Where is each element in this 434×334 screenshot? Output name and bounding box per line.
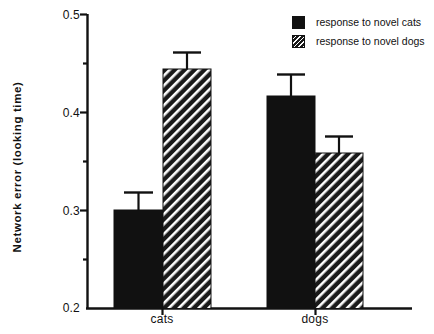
legend-item-1: response to novel dogs bbox=[292, 33, 434, 49]
legend-label-1: response to novel dogs bbox=[316, 35, 425, 47]
bar-cats-solid bbox=[114, 210, 163, 309]
hatched-square-icon bbox=[292, 35, 305, 48]
legend-item-0: response to novel cats bbox=[292, 14, 434, 30]
bar-dogs-solid bbox=[267, 96, 315, 309]
solid-black-square-icon bbox=[292, 16, 305, 29]
bar-dogs-hatched bbox=[315, 153, 363, 309]
bar-chart: Network error (looking time) 0.5 0.4 0.3… bbox=[0, 0, 434, 334]
legend: response to novel cats response to novel… bbox=[292, 14, 434, 52]
bar-cats-hatched bbox=[163, 69, 211, 309]
legend-label-0: response to novel cats bbox=[316, 16, 421, 28]
